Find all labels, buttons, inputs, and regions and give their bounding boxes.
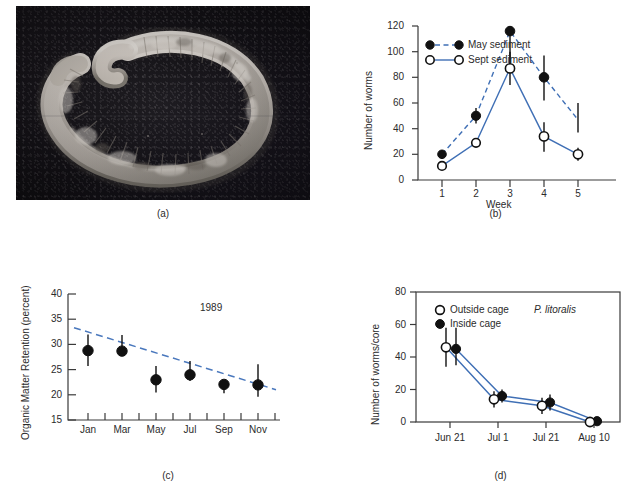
annotation-species-d: P. litoralis [534, 304, 576, 315]
panel-a-photograph [16, 6, 310, 200]
caption-d: (d) [368, 470, 633, 481]
x-tick-d-jun21: Jun 21 [426, 432, 474, 443]
worm-photo [16, 6, 310, 200]
x-tick-d-jul21: Jul 21 [522, 432, 570, 443]
y-axis-title-b: Number of worms [363, 71, 374, 150]
x-tick-c-nov: Nov [244, 424, 272, 435]
legend-label-sept-sediment: Sept sediment [468, 54, 532, 65]
caption-b: (b) [358, 208, 633, 219]
panel-d-chart: 80 60 40 20 0 Jun 21 Jul 1 Jul 21 Aug 10… [368, 280, 633, 480]
y-tick-d-80: 80 [368, 286, 406, 297]
x-tick-c-mar: Mar [108, 424, 136, 435]
x-tick-b-4: 4 [534, 188, 554, 199]
x-tick-b-1: 1 [432, 188, 452, 199]
series-outside-cage-markers [441, 343, 594, 427]
x-tick-c-may: May [142, 424, 170, 435]
x-tick-b-5: 5 [568, 188, 588, 199]
x-tick-c-jan: Jan [74, 424, 102, 435]
panel-c-chart: 40 35 30 25 20 15 Jan Mar May Jul Sep No… [18, 280, 318, 480]
trendline-c [74, 328, 276, 390]
series-inside-cage-line [456, 349, 597, 421]
x-tick-b-2: 2 [466, 188, 486, 199]
caption-a: (a) [16, 208, 310, 219]
annotation-year-c: 1989 [200, 302, 222, 313]
photo-vignette [16, 6, 310, 200]
y-tick-b-120: 120 [364, 20, 404, 31]
y-axis-title-c: Organic Matter Retention (percent) [20, 285, 31, 440]
legend-label-may-sediment: May sediment [468, 39, 530, 50]
series-c-markers [83, 345, 263, 390]
legend-b [426, 41, 463, 64]
y-tick-b-100: 100 [364, 46, 404, 57]
y-axis-title-d: Number of worms/core [370, 324, 381, 425]
error-bars-c [88, 335, 258, 397]
legend-label-outside-cage: Outside cage [450, 304, 509, 315]
x-tick-c-sep: Sep [210, 424, 238, 435]
series-outside-cage-line [446, 347, 590, 422]
chart-c-svg [18, 280, 318, 480]
x-tick-b-3: 3 [500, 188, 520, 199]
panel-b-chart: 120 100 80 60 40 20 0 1 2 3 4 5 May sedi… [358, 8, 633, 208]
x-tick-d-jul1: Jul 1 [474, 432, 522, 443]
legend-label-inside-cage: Inside cage [450, 318, 501, 329]
caption-c: (c) [18, 470, 318, 481]
y-tick-b-0: 0 [364, 174, 404, 185]
x-tick-c-jul: Jul [176, 424, 204, 435]
legend-d [436, 306, 445, 329]
x-tick-d-aug10: Aug 10 [570, 432, 618, 443]
